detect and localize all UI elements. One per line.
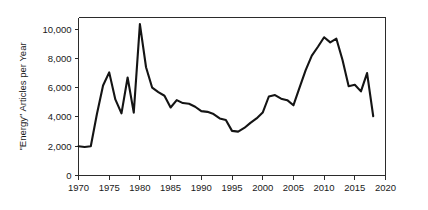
x-tick-label: 1970: [68, 182, 89, 193]
x-tick-label: 2005: [283, 182, 304, 193]
x-axis-ticks: 1970197519801985199019952000200520102015…: [68, 176, 396, 193]
x-tick-label: 1990: [191, 182, 212, 193]
x-tick-label: 1995: [221, 182, 242, 193]
y-tick-label: 6,000: [48, 82, 72, 93]
y-tick-label: 10,000: [42, 24, 71, 35]
y-axis-ticks: 02,0004,0006,0008,00010,000: [42, 24, 78, 181]
x-tick-label: 2000: [252, 182, 273, 193]
y-tick-label: 2,000: [48, 141, 72, 152]
chart-figure: 02,0004,0006,0008,00010,000 197019751980…: [0, 0, 428, 210]
series-line: [79, 24, 374, 147]
y-axis-title: "Energy" Articles per Year: [17, 42, 28, 150]
x-tick-label: 1980: [129, 182, 150, 193]
x-tick-label: 2010: [314, 182, 335, 193]
data-series: [79, 24, 374, 147]
y-axis-label-text: "Energy" Articles per Year: [17, 42, 28, 150]
energy-articles-line-chart: 02,0004,0006,0008,00010,000 197019751980…: [0, 0, 428, 210]
x-tick-label: 2015: [344, 182, 365, 193]
y-tick-label: 8,000: [48, 53, 72, 64]
y-tick-label: 4,000: [48, 111, 72, 122]
x-tick-label: 1975: [99, 182, 120, 193]
x-tick-label: 2020: [375, 182, 396, 193]
x-tick-label: 1985: [160, 182, 181, 193]
y-tick-label: 0: [66, 170, 71, 181]
